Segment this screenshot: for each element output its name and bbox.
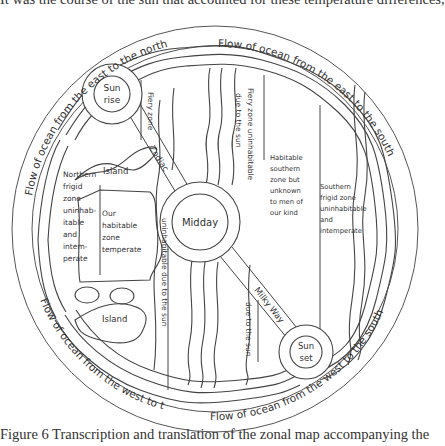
habitable-zone-outline <box>78 190 162 282</box>
svg-text:temperate: temperate <box>102 245 142 254</box>
midday-label: Midday <box>182 217 218 228</box>
our-habitable-zone-label: Our habitable zone temperate <box>102 209 142 254</box>
uninhabitable-due-to-sun-left-label: uninhabitable due to the sun <box>160 218 169 327</box>
fiery-zone-label: Fiery zone <box>146 92 155 131</box>
svg-text:perate: perate <box>63 254 88 263</box>
svg-text:our kind: our kind <box>270 209 298 217</box>
svg-text:frigid: frigid <box>63 182 83 191</box>
svg-text:and: and <box>320 216 333 224</box>
svg-text:itable: itable <box>63 218 84 227</box>
svg-text:Southern: Southern <box>320 183 351 191</box>
svg-text:Northern: Northern <box>63 170 97 179</box>
svg-text:frigid zone: frigid zone <box>320 194 356 202</box>
fiery-zone-uninhabitable-label: Fiery zone uninhabitable <box>246 88 255 181</box>
due-to-sun-top-label: due to the sun <box>234 93 243 148</box>
svg-text:uninhabitable: uninhabitable <box>320 205 367 213</box>
sunrise-label-2: rise <box>104 95 121 105</box>
svg-text:zone: zone <box>102 233 120 242</box>
sunrise-label-1: Sun <box>103 83 120 93</box>
due-to-sun-bottom-label: due to the sun <box>244 302 253 357</box>
island-lower-label: Island <box>102 314 127 324</box>
figure-caption: Figure 6 Transcription and translation o… <box>0 426 428 443</box>
svg-text:zone: zone <box>63 194 81 203</box>
svg-text:uninhab-: uninhab- <box>63 206 96 215</box>
svg-text:and: and <box>63 230 77 239</box>
southern-frigid-zone-label: Southern frigid zone uninhabitable and i… <box>320 183 367 235</box>
svg-text:intem-: intem- <box>63 242 88 251</box>
island-upper-label: Island <box>103 166 128 176</box>
habitable-southern-zone-label: Habitable southern zone but unknown to m… <box>270 154 303 217</box>
svg-text:habitable: habitable <box>102 221 138 230</box>
islet <box>75 287 99 303</box>
svg-text:southern: southern <box>270 165 300 173</box>
svg-text:intemperate: intemperate <box>320 227 362 235</box>
svg-text:to men of: to men of <box>270 198 303 206</box>
ocean-flow-top-right: Flow of ocean from the east to the south <box>218 37 398 158</box>
islet <box>110 288 134 304</box>
svg-text:unknown: unknown <box>270 187 301 195</box>
sunset-label-1: Sun <box>298 341 314 351</box>
svg-text:Habitable: Habitable <box>270 154 303 162</box>
svg-text:Our: Our <box>102 209 117 218</box>
northern-frigid-zone-label: Northern frigid zone uninhab- itable and… <box>63 170 97 263</box>
svg-text:zone but: zone but <box>270 176 300 184</box>
sunset-label-2: set <box>300 353 314 363</box>
